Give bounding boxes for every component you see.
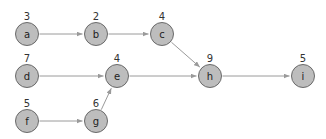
node-label: g <box>93 116 99 127</box>
node-weight-label: 6 <box>93 98 99 109</box>
node-weight-label: 3 <box>24 11 30 22</box>
node-weight-label: 2 <box>93 11 99 22</box>
edge-g-to-e <box>101 88 111 109</box>
node-weight-label: 7 <box>24 53 30 64</box>
node-weight-label: 4 <box>114 53 120 64</box>
node-e: e4 <box>106 53 129 88</box>
node-label: d <box>24 71 30 82</box>
node-weight-label: 9 <box>207 53 213 64</box>
node-a: a3 <box>16 11 39 46</box>
node-h: h9 <box>199 53 222 88</box>
node-f: f5 <box>16 98 39 133</box>
node-label: i <box>302 71 305 82</box>
node-label: a <box>24 29 30 40</box>
node-label: c <box>159 29 165 40</box>
dependency-graph: a3b2c4d7e4h9i5f5g6 <box>0 0 326 139</box>
node-c: c4 <box>151 11 174 46</box>
node-weight-label: 4 <box>159 11 165 22</box>
node-label: h <box>207 71 213 82</box>
node-b: b2 <box>85 11 108 46</box>
edges-layer <box>40 34 290 121</box>
nodes-layer: a3b2c4d7e4h9i5f5g6 <box>16 11 315 133</box>
node-label: f <box>25 116 29 127</box>
node-weight-label: 5 <box>24 98 30 109</box>
node-label: b <box>93 29 99 40</box>
edge-c-to-h <box>171 42 199 67</box>
node-i: i5 <box>292 53 315 88</box>
node-label: e <box>114 71 120 82</box>
node-weight-label: 5 <box>300 53 306 64</box>
node-d: d7 <box>16 53 39 88</box>
